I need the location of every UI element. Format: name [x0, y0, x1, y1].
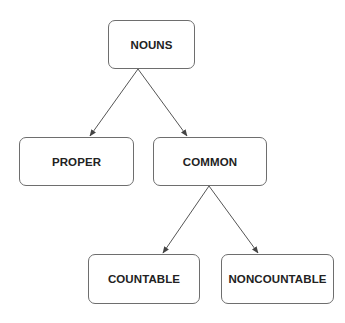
- node-common: COMMON: [153, 137, 267, 186]
- node-label: PROPER: [52, 156, 101, 168]
- edge-nouns-common: [138, 69, 187, 136]
- node-label: NOUNS: [130, 39, 172, 51]
- node-label: NONCOUNTABLE: [228, 273, 326, 285]
- node-label: COMMON: [183, 156, 237, 168]
- edge-nouns-proper: [90, 69, 138, 136]
- node-label: COUNTABLE: [108, 273, 180, 285]
- node-nouns: NOUNS: [108, 20, 195, 69]
- edge-common-noncountable: [209, 186, 258, 253]
- edge-common-countable: [163, 186, 209, 253]
- node-noncountable: NONCOUNTABLE: [221, 254, 334, 304]
- node-proper: PROPER: [19, 137, 134, 186]
- node-countable: COUNTABLE: [88, 254, 200, 304]
